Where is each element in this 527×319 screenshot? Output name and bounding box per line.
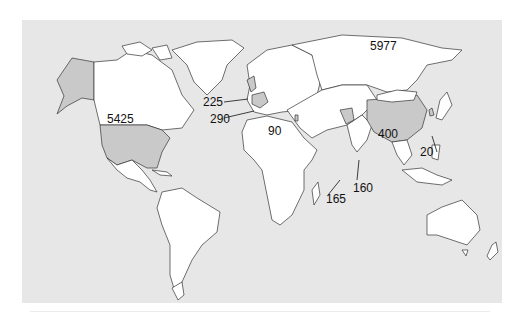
- world-map: [22, 20, 502, 303]
- greenland: [172, 40, 244, 95]
- divider: [30, 311, 490, 312]
- south-america: [157, 188, 220, 292]
- israel: [295, 115, 298, 121]
- value-label-france: 290: [210, 113, 230, 125]
- australia: [427, 200, 480, 245]
- value-label-india: 160: [353, 182, 373, 194]
- alaska: [57, 58, 94, 114]
- value-label-israel: 90: [268, 125, 281, 137]
- value-label-pakistan: 165: [326, 193, 346, 205]
- north-korea: [429, 108, 434, 116]
- value-label-china: 400: [378, 128, 398, 140]
- value-label-usa: 5425: [107, 113, 134, 125]
- value-label-north-korea: 20: [420, 146, 433, 158]
- value-label-russia: 5977: [370, 40, 397, 52]
- value-label-uk: 225: [203, 96, 223, 108]
